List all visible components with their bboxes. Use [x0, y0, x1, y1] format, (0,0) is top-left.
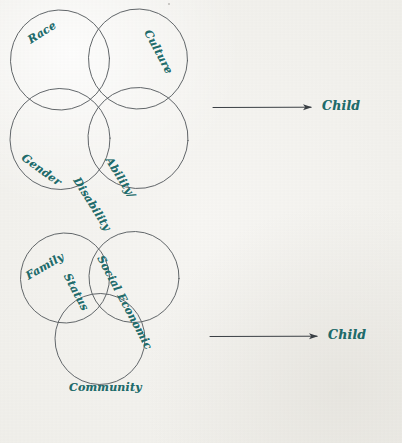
venn-circle-gender	[9, 88, 111, 191]
venn-circle-culture	[87, 7, 189, 110]
paper-speck	[168, 3, 170, 5]
venn-circle-ability-disability	[85, 85, 190, 191]
identity-venn-circles	[0, 0, 402, 443]
venn-circle-race	[9, 8, 111, 111]
venn-circle-social-economic-status	[87, 230, 180, 324]
sketch-page: Race Culture Gender Ability/ Disability …	[0, 0, 402, 443]
